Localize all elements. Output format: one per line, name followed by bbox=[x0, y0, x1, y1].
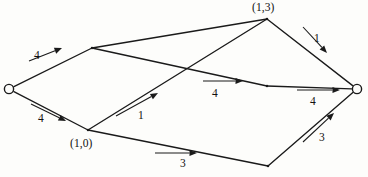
lower-left-node bbox=[87, 129, 90, 132]
top-node bbox=[266, 18, 269, 21]
upper-left-node bbox=[91, 47, 94, 50]
flow-arrow-source-upper-left-head bbox=[54, 48, 62, 54]
network-flow-figure: (1,3)(1,0)44141433 bbox=[0, 0, 368, 177]
edge-weight-top-sink: 1 bbox=[314, 33, 320, 45]
edge-weight-source-lower-left: 4 bbox=[38, 113, 44, 125]
node-label-top: (1,3) bbox=[252, 2, 275, 14]
middle-right-node bbox=[266, 85, 269, 88]
edge-lower-left-to-bottom bbox=[88, 130, 268, 166]
graph-canvas bbox=[0, 0, 368, 177]
sink-node bbox=[352, 84, 361, 93]
edge-lower-left-to-top bbox=[88, 19, 267, 130]
flow-arrow-source-upper-left-shaft bbox=[29, 51, 55, 61]
nodes-group bbox=[4, 18, 361, 168]
edge-source-to-lower-left bbox=[14, 92, 88, 130]
flow-arrow-upper-left-mid bbox=[203, 78, 243, 84]
flow-arrow-source-lower-left-shaft bbox=[31, 104, 59, 118]
edge-top-to-sink bbox=[267, 19, 353, 86]
edge-mid-to-sink bbox=[267, 86, 352, 89]
edge-source-to-upper-left bbox=[14, 48, 92, 87]
edge-weight-mid-sink: 4 bbox=[310, 96, 316, 108]
flow-arrow-source-lower-left bbox=[31, 104, 66, 121]
edge-weight-source-upper-left: 4 bbox=[34, 50, 40, 62]
bottom-node bbox=[267, 165, 270, 168]
flow-arrow-lower-left-top-shaft bbox=[116, 97, 151, 116]
edge-weight-bottom-sink: 3 bbox=[319, 132, 325, 144]
flow-arrow-lower-left-bottom bbox=[155, 150, 197, 156]
edge-weight-lower-left-bottom: 3 bbox=[180, 158, 186, 170]
flow-arrow-upper-left-mid-head bbox=[236, 78, 244, 84]
node-label-lower-left: (1,0) bbox=[70, 138, 93, 150]
edge-weight-upper-left-mid: 4 bbox=[212, 88, 218, 100]
edges-group bbox=[14, 19, 353, 166]
source-node bbox=[4, 84, 13, 93]
edge-weight-lower-left-top: 1 bbox=[138, 110, 144, 122]
edge-upper-left-to-top bbox=[92, 19, 267, 48]
flow-arrow-lower-left-top bbox=[116, 93, 158, 116]
